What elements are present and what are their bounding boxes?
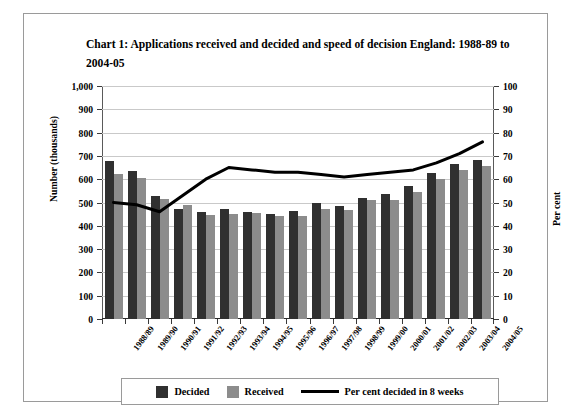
x-axis-tick-label: 1994/95 xyxy=(270,324,295,352)
bar-group xyxy=(286,211,309,319)
bar-group xyxy=(194,212,217,319)
y-axis-right-tick xyxy=(494,203,499,204)
x-axis-tick-label: 1996/97 xyxy=(316,324,341,352)
y-axis-right-tick xyxy=(494,272,499,273)
y-axis-left-tick-label: 500 xyxy=(79,197,93,208)
y-axis-right-tick-label: 0 xyxy=(503,314,508,325)
x-axis-tick xyxy=(102,319,103,324)
bar-received xyxy=(183,205,192,319)
y-axis-right-tick-label: 100 xyxy=(503,81,517,92)
y-axis-left-label: Number (thousands) xyxy=(48,116,59,202)
x-axis-tick-label: 2004/05 xyxy=(500,324,525,352)
y-axis-right-tick xyxy=(494,156,499,157)
bar-group xyxy=(379,194,402,319)
bar-received xyxy=(252,213,261,319)
bar-decided xyxy=(404,186,413,319)
y-axis-left-tick-label: 600 xyxy=(79,174,93,185)
y-axis-left-tick-label: 800 xyxy=(79,127,93,138)
gridline xyxy=(102,109,494,110)
legend-swatch-decided xyxy=(156,386,168,398)
y-axis-right-tick-label: 40 xyxy=(503,220,513,231)
x-axis-tick xyxy=(125,319,126,324)
y-axis-right-tick xyxy=(494,86,499,87)
bar-received xyxy=(114,174,123,319)
x-axis-tick-label: 2002/03 xyxy=(454,324,479,352)
bar-received xyxy=(344,210,353,320)
y-axis-right-tick xyxy=(494,179,499,180)
y-axis-right-tick-label: 20 xyxy=(503,267,513,278)
x-axis-tick-label: 2000/01 xyxy=(408,324,433,352)
bar-received xyxy=(160,199,169,319)
legend-label-received: Received xyxy=(245,386,284,397)
y-axis-right-label: Per cent xyxy=(551,192,562,226)
y-axis-right-tick-label: 30 xyxy=(503,244,513,255)
y-axis-right-tick-label: 90 xyxy=(503,104,513,115)
y-axis-right-tick-label: 50 xyxy=(503,197,513,208)
bar-decided xyxy=(220,209,229,319)
y-axis-left-tick-label: 0 xyxy=(88,314,93,325)
bar-decided xyxy=(128,171,137,319)
bar-decided xyxy=(266,214,275,319)
y-axis-right-tick xyxy=(494,319,499,320)
bar-group xyxy=(125,171,148,319)
bar-decided xyxy=(312,203,321,319)
bar-decided xyxy=(174,209,183,319)
bar-group xyxy=(402,186,425,319)
bar-received xyxy=(459,170,468,319)
bar-group xyxy=(240,212,263,319)
bar-received xyxy=(321,209,330,319)
bar-decided xyxy=(450,164,459,319)
y-axis-left-tick-label: 400 xyxy=(79,220,93,231)
bar-received xyxy=(367,200,376,319)
legend-item-decided: Decided xyxy=(156,386,209,398)
chart-title: Chart 1: Applications received and decid… xyxy=(86,35,526,73)
x-axis-tick-label: 2003/04 xyxy=(477,324,502,352)
bar-decided xyxy=(473,160,482,319)
y-axis-right-tick xyxy=(494,296,499,297)
bar-group xyxy=(217,209,240,319)
y-axis-right-tick xyxy=(494,133,499,134)
x-axis-tick-label: 1993/94 xyxy=(247,324,272,352)
bar-group xyxy=(356,198,379,319)
bar-decided xyxy=(381,194,390,319)
gridline xyxy=(102,156,494,157)
y-axis-left-tick xyxy=(97,109,102,110)
gridline xyxy=(102,86,494,87)
gridline xyxy=(102,133,494,134)
y-axis-right-tick-label: 10 xyxy=(503,290,513,301)
y-axis-right-tick-label: 70 xyxy=(503,150,513,161)
legend-item-percent: Per cent decided in 8 weeks xyxy=(301,386,464,397)
chart-frame: Chart 1: Applications received and decid… xyxy=(23,13,548,402)
legend-label-percent: Per cent decided in 8 weeks xyxy=(345,386,464,397)
bar-decided xyxy=(289,211,298,319)
y-axis-left-tick-label: 700 xyxy=(79,150,93,161)
bar-group xyxy=(263,214,286,319)
y-axis-right-tick xyxy=(494,249,499,250)
x-axis-tick-label: 1999/00 xyxy=(385,324,410,352)
bar-decided xyxy=(427,173,436,319)
y-axis-left-tick-label: 200 xyxy=(79,267,93,278)
bar-received xyxy=(436,179,445,319)
bar-decided xyxy=(105,161,114,319)
x-axis-tick-label: 1997/98 xyxy=(339,324,364,352)
bar-decided xyxy=(197,212,206,319)
bar-group xyxy=(148,196,171,319)
y-axis-left-tick-label: 900 xyxy=(79,104,93,115)
bar-received xyxy=(206,215,215,319)
bar-decided xyxy=(151,196,160,319)
bar-group xyxy=(425,173,448,319)
y-axis-right-tick-label: 80 xyxy=(503,127,513,138)
bar-group xyxy=(333,206,356,319)
x-axis-tick-label: 1992/93 xyxy=(223,324,248,352)
legend-swatch-percent-line xyxy=(301,390,339,393)
y-axis-left-tick xyxy=(97,86,102,87)
y-axis-right-tick xyxy=(494,226,499,227)
bar-group xyxy=(448,164,471,319)
bar-received xyxy=(275,216,284,319)
x-axis-tick-label: 2001/02 xyxy=(431,324,456,352)
x-axis-tick-label: 1989/90 xyxy=(154,324,179,352)
y-axis-right-tick xyxy=(494,109,499,110)
bar-received xyxy=(298,216,307,319)
y-axis-left-tick xyxy=(97,133,102,134)
bar-received xyxy=(413,192,422,319)
